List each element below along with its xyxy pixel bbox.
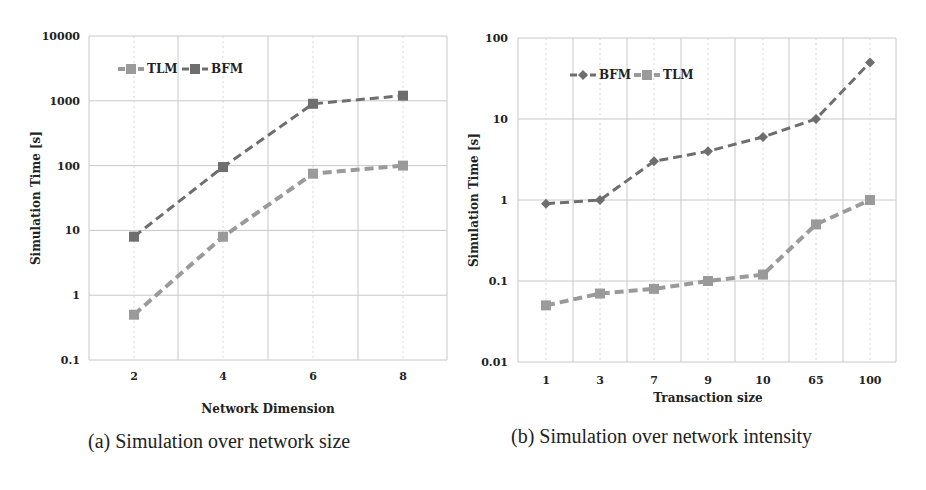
data-point-marker <box>308 99 318 109</box>
data-point-marker <box>218 232 228 242</box>
y-tick-label: 1000 <box>49 95 80 108</box>
legend-label: BFM <box>599 68 631 82</box>
data-point-marker <box>398 161 408 171</box>
legend-marker-icon <box>190 64 200 74</box>
panel-a: 0.11101001000100002468Network DimensionS… <box>29 30 447 416</box>
legend-label: TLM <box>147 62 178 76</box>
y-tick-label: 0.01 <box>481 356 508 369</box>
x-tick-label: 2 <box>130 370 138 383</box>
data-point-marker <box>758 270 768 280</box>
x-tick-label: 3 <box>596 374 604 387</box>
y-axis-label: Simulation Time [s] <box>29 131 43 265</box>
x-tick-label: 4 <box>219 370 227 383</box>
legend-label: TLM <box>663 68 694 82</box>
legend-marker-icon <box>126 64 136 74</box>
x-tick-label: 8 <box>399 370 407 383</box>
data-point-marker <box>308 169 318 179</box>
y-tick-label: 1 <box>500 194 508 207</box>
x-tick-label: 1 <box>542 374 550 387</box>
y-tick-label: 10 <box>493 113 509 126</box>
data-point-marker <box>129 310 139 320</box>
x-tick-label: 10 <box>755 374 771 387</box>
x-tick-label: 65 <box>808 374 823 387</box>
y-tick-label: 1 <box>72 289 80 302</box>
data-point-marker <box>865 57 875 67</box>
legend-marker-icon <box>578 70 588 80</box>
data-point-marker <box>541 300 551 310</box>
legend-label: BFM <box>211 62 243 76</box>
x-tick-label: 7 <box>650 374 658 387</box>
y-tick-label: 0.1 <box>61 354 80 367</box>
x-axis-label: Transaction size <box>653 391 763 405</box>
data-point-marker <box>811 219 821 229</box>
y-tick-label: 100 <box>485 32 508 45</box>
y-tick-label: 10000 <box>42 30 81 43</box>
caption-b: (b) Simulation over network intensity <box>511 425 812 448</box>
data-point-marker <box>218 162 228 172</box>
y-axis-label: Simulation Time [s] <box>467 133 481 267</box>
legend: BFMTLM <box>570 68 694 82</box>
y-tick-label: 0.1 <box>489 275 508 288</box>
chart-network-size: 0.11101001000100002468Network DimensionS… <box>0 0 926 490</box>
panel-b: 0.010.111010013791065100Transaction size… <box>467 32 896 405</box>
data-point-marker <box>811 114 821 124</box>
figure: 0.11101001000100002468Network DimensionS… <box>0 0 926 490</box>
x-tick-label: 6 <box>309 370 317 383</box>
data-point-marker <box>758 132 768 142</box>
x-tick-label: 100 <box>859 374 882 387</box>
data-point-marker <box>595 289 605 299</box>
data-point-marker <box>398 91 408 101</box>
legend-marker-icon <box>642 70 652 80</box>
x-axis-label: Network Dimension <box>201 402 335 416</box>
data-point-marker <box>649 284 659 294</box>
y-tick-label: 100 <box>57 160 80 173</box>
data-point-marker <box>129 232 139 242</box>
y-tick-label: 10 <box>65 224 81 237</box>
legend: TLMBFM <box>118 62 243 76</box>
caption-a: (a) Simulation over network size <box>88 430 350 453</box>
data-point-marker <box>865 195 875 205</box>
x-tick-label: 9 <box>704 374 712 387</box>
data-point-marker <box>703 276 713 286</box>
data-point-marker <box>703 146 713 156</box>
